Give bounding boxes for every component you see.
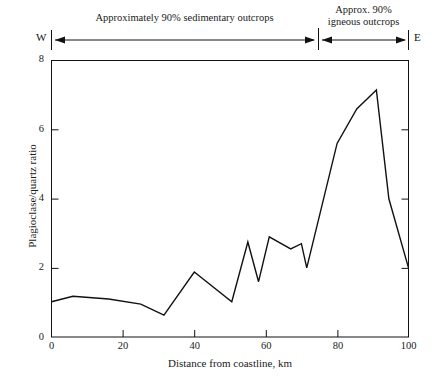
x-tick-label-20: 20	[108, 340, 138, 351]
plot-frame	[52, 61, 409, 338]
x-axis-title: Distance from coastline, km	[51, 357, 409, 369]
y-axis-title: Plagioclase/quartz ratio	[26, 96, 38, 296]
x-tick-label-100: 100	[394, 340, 424, 351]
x-tick-label-60: 60	[251, 340, 281, 351]
x-tick-label-0: 0	[37, 340, 67, 351]
x-tick-label-80: 80	[323, 340, 353, 351]
plot-area	[0, 0, 435, 381]
y-tick-label-8: 8	[28, 53, 44, 64]
chart-page: Approximately 90% sedimentary outcrops A…	[0, 0, 435, 381]
data-series-line	[52, 90, 409, 315]
x-tick-label-40: 40	[180, 340, 210, 351]
